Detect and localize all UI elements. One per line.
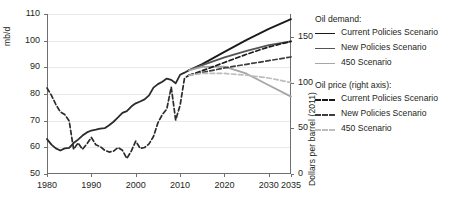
tick-mark-x [91, 174, 92, 177]
legend-item[interactable]: 450 Scenario [315, 58, 448, 70]
price-line-swatch-icon [315, 124, 335, 136]
x-axis-tick-label: 2000 [116, 180, 156, 190]
legend-heading-price: Oil price (right axis): [315, 80, 448, 90]
legend-item-label: Current Policies Scenario [341, 28, 438, 38]
legend: Oil demand: Current Policies ScenarioNew… [315, 14, 448, 139]
legend-item[interactable]: New Policies Scenario [315, 43, 448, 55]
left-axis-tick-label: 110 [8, 8, 40, 18]
legend-item[interactable]: New Policies Scenario [315, 109, 448, 121]
tick-mark-right [291, 37, 294, 38]
left-axis-tick-label: 50 [8, 168, 40, 178]
series-line [47, 70, 189, 150]
legend-item-label: Current Policies Scenario [341, 94, 438, 104]
left-axis-tick-label: 100 [8, 35, 40, 45]
demand-line-swatch-icon [315, 58, 335, 70]
x-axis-tick-label: 2035 [271, 180, 311, 190]
tick-mark-right [291, 128, 294, 129]
data-series-layer [47, 14, 291, 174]
legend-item-label: New Policies Scenario [341, 43, 427, 53]
x-axis-tick-label: 1990 [71, 180, 111, 190]
x-axis-tick-label: 1980 [27, 180, 67, 190]
legend-group-demand: Current Policies ScenarioNew Policies Sc… [315, 28, 448, 70]
legend-item-label: 450 Scenario [341, 124, 392, 134]
tick-mark-x [269, 174, 270, 177]
tick-mark-x [291, 174, 292, 177]
right-axis-tick-label: 100 [298, 77, 313, 87]
tick-mark-x [180, 174, 181, 177]
legend-item[interactable]: Current Policies Scenario [315, 94, 448, 106]
x-axis-tick-label: 2020 [204, 180, 244, 190]
demand-line-swatch-icon [315, 28, 335, 40]
legend-item[interactable]: Current Policies Scenario [315, 28, 448, 40]
chart-container: mb/d Dollars per barrel (2011) 506070809… [0, 0, 450, 207]
legend-heading-demand: Oil demand: [315, 14, 448, 24]
series-line [189, 67, 291, 97]
x-axis-tick-label: 2010 [160, 180, 200, 190]
series-line [189, 41, 291, 75]
price-line-swatch-icon [315, 94, 335, 106]
left-axis-tick-label: 80 [8, 88, 40, 98]
right-axis-tick-label: 50 [298, 122, 308, 132]
tick-mark-x [136, 174, 137, 177]
demand-line-swatch-icon [315, 43, 335, 55]
left-axis-tick-label: 60 [8, 141, 40, 151]
right-axis-tick-label: 0 [298, 168, 303, 178]
legend-item-label: New Policies Scenario [341, 109, 427, 119]
tick-mark-x [224, 174, 225, 177]
plot-area [47, 14, 291, 174]
series-line [189, 73, 291, 82]
left-axis-tick-label: 70 [8, 115, 40, 125]
price-line-swatch-icon [315, 109, 335, 121]
right-axis-tick-label: 150 [298, 31, 313, 41]
left-axis-tick-label: 90 [8, 61, 40, 71]
tick-mark-x [47, 174, 48, 177]
legend-spacer [315, 73, 448, 80]
legend-item-label: 450 Scenario [341, 58, 392, 68]
legend-item[interactable]: 450 Scenario [315, 124, 448, 136]
legend-group-price: Current Policies ScenarioNew Policies Sc… [315, 94, 448, 136]
